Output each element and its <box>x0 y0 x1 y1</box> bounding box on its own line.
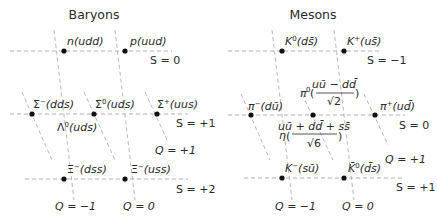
xi-zero-dot <box>122 176 127 181</box>
xi-minus-dot <box>61 176 66 181</box>
sigma-zero-label: Σ0(uds) <box>95 98 135 111</box>
pi-zero-dot <box>310 112 315 117</box>
sigma-zero-dot <box>91 111 96 116</box>
svg-text:): ) <box>338 130 342 143</box>
charge-label-q0-meson: Q = 0 <box>342 200 374 213</box>
xi-minus-label: Ξ−(dss) <box>67 163 107 176</box>
strangeness-label-s1: S = +1 <box>176 117 215 130</box>
xi-zero-label: Ξ−(uss) <box>131 163 171 176</box>
lambda-zero-label: Λ0(uds) <box>57 121 97 134</box>
pi-minus-dot <box>248 112 253 117</box>
charge-label-q0: Q = 0 <box>123 200 155 213</box>
pi-plus-dot <box>372 112 377 117</box>
k-bar-zero-dot <box>341 175 346 180</box>
pi-plus-label: π+(ud̄) <box>380 100 415 113</box>
proton-dot <box>122 48 127 53</box>
strangeness-label-s1-meson: S = +1 <box>396 181 435 194</box>
meson-octet: Mesons K0(ds̄) K+(us̄) π−(dū) π+(ud̄) π … <box>228 7 435 213</box>
strangeness-label-s0: S = 0 <box>150 54 180 67</box>
pi-zero-numerator: uū − dd̄ <box>312 78 358 91</box>
k-minus-dot <box>279 175 284 180</box>
sigma-minus-label: Σ−(dds) <box>33 98 74 111</box>
baryons-title: Baryons <box>69 7 120 22</box>
sigma-minus-dot <box>29 111 34 116</box>
strangeness-label-s0-meson: S = 0 <box>399 119 429 132</box>
k-zero-dot <box>279 48 284 53</box>
strangeness-label-s2: S = +2 <box>176 183 215 196</box>
svg-text:): ) <box>355 87 359 100</box>
pi-zero-label: π 0 ( uū − dd̄ √2 ) <box>300 78 359 108</box>
proton-label: p(uud) <box>129 35 167 48</box>
k-zero-label: K0(ds̄) <box>285 35 318 48</box>
mesons-title: Mesons <box>289 7 336 22</box>
k-bar-zero-label: K̄0(d̄s) <box>348 162 381 175</box>
charge-label-q1: Q = +1 <box>155 144 196 157</box>
charge-label-q1-meson: Q = +1 <box>385 153 426 166</box>
sigma-plus-dot <box>154 111 159 116</box>
charge-label-qm1-meson: Q = −1 <box>275 200 316 213</box>
charge-label-qm1: Q = −1 <box>55 200 96 213</box>
eta-label: η ( uū + dd̄ + ss̄ √6 ) <box>278 120 350 150</box>
k-plus-dot <box>341 48 346 53</box>
eightfold-way-diagram: Baryons n(udd) p(uud) Σ−(dds) Σ0(uds) Σ+… <box>0 0 437 222</box>
sigma-plus-label: Σ+(uus) <box>157 98 198 111</box>
strangeness-label-sm1: S = −1 <box>367 54 406 67</box>
k-plus-label: K+(us̄) <box>347 35 381 48</box>
pi-zero-denominator: √2 <box>327 95 341 108</box>
baryon-octet: Baryons n(udd) p(uud) Σ−(dds) Σ0(uds) Σ+… <box>10 7 215 213</box>
pi-minus-label: π−(dū) <box>248 100 283 113</box>
neutron-label: n(udd) <box>67 35 104 48</box>
eta-denominator: √6 <box>307 137 321 150</box>
k-minus-label: K−(sū) <box>285 162 319 175</box>
neutron-dot <box>61 48 66 53</box>
